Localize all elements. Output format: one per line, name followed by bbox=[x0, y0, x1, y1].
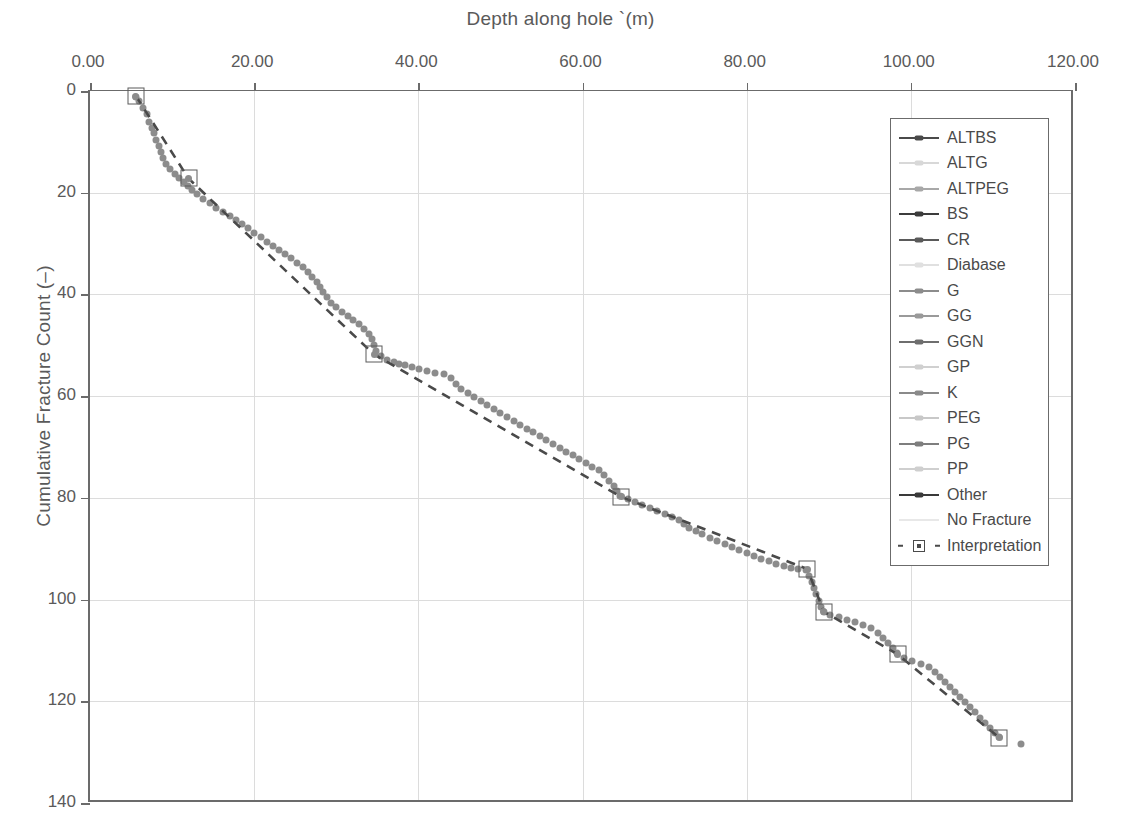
legend-item-label: ALTBS bbox=[947, 130, 997, 146]
x-tickmark bbox=[911, 83, 913, 91]
legend-item-label: No Fracture bbox=[947, 512, 1031, 528]
y-tickmark bbox=[81, 91, 90, 93]
legend-swatch-icon bbox=[898, 410, 940, 426]
legend-item[interactable]: K bbox=[898, 380, 1041, 406]
legend-swatch-icon bbox=[898, 436, 940, 452]
legend-item-label: PG bbox=[947, 436, 970, 452]
legend-item[interactable]: G bbox=[898, 278, 1041, 304]
x-tickmark bbox=[747, 83, 749, 91]
legend-swatch-icon bbox=[898, 155, 940, 171]
legend-item[interactable]: GG bbox=[898, 304, 1041, 330]
interpretation-marker bbox=[799, 561, 816, 578]
legend-item-label: Diabase bbox=[947, 257, 1006, 273]
interpretation-marker bbox=[180, 170, 197, 187]
legend-item[interactable]: Other bbox=[898, 482, 1041, 508]
legend-swatch-icon bbox=[898, 130, 940, 146]
x-tickmark bbox=[418, 83, 420, 91]
legend-item[interactable]: CR bbox=[898, 227, 1041, 253]
legend-swatch-icon bbox=[898, 283, 940, 299]
legend-item[interactable]: BS bbox=[898, 202, 1041, 228]
x-tick-label: 120.00 bbox=[1047, 52, 1099, 72]
x-tickmark bbox=[90, 83, 92, 91]
x-tick-label: 100.00 bbox=[883, 52, 935, 72]
legend-item-label: PEG bbox=[947, 410, 981, 426]
y-tick-label: 100 bbox=[30, 589, 76, 609]
x-tick-label: 40.00 bbox=[395, 52, 438, 72]
interpretation-marker bbox=[889, 646, 906, 663]
legend-item-label: GG bbox=[947, 308, 972, 324]
legend-item-label: K bbox=[947, 385, 958, 401]
legend-item-label: ALTG bbox=[947, 155, 988, 171]
x-tickmark bbox=[1075, 83, 1077, 91]
legend-swatch-icon bbox=[898, 461, 940, 477]
y-tickmark bbox=[81, 803, 90, 805]
y-tickmark bbox=[81, 396, 90, 398]
legend-swatch-icon bbox=[898, 359, 940, 375]
legend-item[interactable]: GGN bbox=[898, 329, 1041, 355]
legend-item[interactable]: ALTPEG bbox=[898, 176, 1041, 202]
legend-swatch-icon bbox=[898, 206, 940, 222]
legend-item[interactable]: ALTG bbox=[898, 151, 1041, 177]
interpretation-marker bbox=[127, 88, 144, 105]
y-tick-label: 60 bbox=[30, 385, 76, 405]
interpretation-marker bbox=[815, 603, 832, 620]
chart-legend: ALTBSALTGALTPEGBSCRDiabaseGGGGGNGPKPEGPG… bbox=[890, 118, 1049, 566]
legend-swatch-icon bbox=[898, 334, 940, 350]
legend-swatch-icon bbox=[898, 487, 940, 503]
legend-swatch-icon bbox=[898, 257, 940, 273]
legend-swatch-icon bbox=[898, 512, 940, 528]
interpretation-marker bbox=[366, 346, 383, 363]
legend-item-label: Interpretation bbox=[947, 538, 1041, 554]
legend-item-label: GP bbox=[947, 359, 970, 375]
legend-item-label: ALTPEG bbox=[947, 181, 1009, 197]
y-tickmark bbox=[81, 294, 90, 296]
legend-item[interactable]: Interpretation bbox=[898, 533, 1041, 559]
y-tick-label: 140 bbox=[30, 792, 76, 812]
interpretation-marker bbox=[991, 729, 1008, 746]
legend-item[interactable]: No Fracture bbox=[898, 508, 1041, 534]
legend-item-label: GGN bbox=[947, 334, 983, 350]
legend-swatch-icon bbox=[898, 538, 940, 554]
interpretation-marker bbox=[613, 488, 630, 505]
legend-item[interactable]: PP bbox=[898, 457, 1041, 483]
legend-item[interactable]: GP bbox=[898, 355, 1041, 381]
x-axis-title: Depth along hole `(m) bbox=[0, 8, 1121, 30]
y-tick-label: 80 bbox=[30, 487, 76, 507]
y-tickmark bbox=[81, 701, 90, 703]
y-tickmark bbox=[81, 498, 90, 500]
legend-item[interactable]: PG bbox=[898, 431, 1041, 457]
legend-item-label: Other bbox=[947, 487, 987, 503]
y-tickmark bbox=[81, 193, 90, 195]
y-tick-label: 20 bbox=[30, 182, 76, 202]
chart-canvas: Depth along hole `(m) Cumulative Fractur… bbox=[0, 0, 1121, 824]
x-tick-label: 20.00 bbox=[231, 52, 274, 72]
y-tick-label: 0 bbox=[30, 80, 76, 100]
x-tickmark bbox=[254, 83, 256, 91]
x-tickmark bbox=[583, 83, 585, 91]
legend-item[interactable]: ALTBS bbox=[898, 125, 1041, 151]
y-tick-label: 40 bbox=[30, 283, 76, 303]
legend-item-label: PP bbox=[947, 461, 968, 477]
legend-swatch-icon bbox=[898, 232, 940, 248]
x-tick-label: 0.00 bbox=[71, 52, 104, 72]
legend-swatch-icon bbox=[898, 308, 940, 324]
x-tick-label: 80.00 bbox=[723, 52, 766, 72]
legend-swatch-icon bbox=[898, 385, 940, 401]
legend-item[interactable]: Diabase bbox=[898, 253, 1041, 279]
legend-item-label: G bbox=[947, 283, 959, 299]
legend-item-label: CR bbox=[947, 232, 970, 248]
legend-swatch-icon bbox=[898, 181, 940, 197]
x-tick-label: 60.00 bbox=[559, 52, 602, 72]
legend-item-label: BS bbox=[947, 206, 968, 222]
y-tick-label: 120 bbox=[30, 690, 76, 710]
y-tickmark bbox=[81, 600, 90, 602]
legend-item[interactable]: PEG bbox=[898, 406, 1041, 432]
